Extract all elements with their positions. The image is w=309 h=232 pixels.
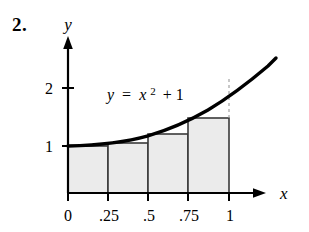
riemann-rect-4 bbox=[188, 118, 229, 193]
equation-plus-one: + 1 bbox=[163, 86, 184, 103]
riemann-rect-3 bbox=[148, 134, 188, 193]
y-axis-label: y bbox=[62, 15, 72, 34]
riemann-rect-1 bbox=[68, 146, 108, 193]
riemann-sum-plot: 0 .25 .5 .75 1 1 2 y x y = x 2 + 1 bbox=[0, 0, 309, 232]
equation-y: y bbox=[105, 86, 115, 104]
riemann-rectangles bbox=[68, 118, 229, 193]
riemann-rect-2 bbox=[108, 143, 148, 193]
equation-annotation: y = x 2 + 1 bbox=[105, 81, 184, 104]
x-tick-label-1: 1 bbox=[226, 207, 234, 224]
y-axis-arrowhead bbox=[63, 36, 73, 49]
x-tick-label-075: .75 bbox=[179, 207, 199, 224]
x-tick-label-0: 0 bbox=[64, 207, 72, 224]
equation-x: x bbox=[138, 86, 146, 103]
x-axis-ticks bbox=[68, 193, 229, 201]
y-tick-label-2: 2 bbox=[45, 80, 53, 97]
equation-exponent: 2 bbox=[150, 85, 156, 97]
equation-equals: = bbox=[122, 86, 131, 103]
y-tick-label-1: 1 bbox=[45, 138, 53, 155]
x-tick-label-025: .25 bbox=[99, 207, 119, 224]
x-axis-arrowhead bbox=[253, 188, 266, 198]
x-axis-label: x bbox=[279, 184, 288, 203]
x-tick-label-05: .5 bbox=[143, 207, 155, 224]
figure-container: 2. 0 bbox=[0, 0, 309, 232]
